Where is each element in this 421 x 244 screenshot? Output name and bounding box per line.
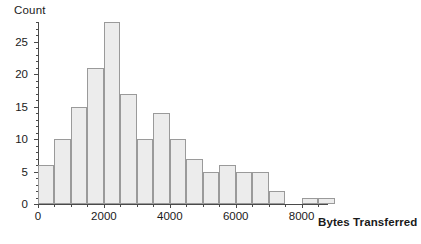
histogram-bar	[87, 68, 103, 205]
y-axis-tick-label: 5	[22, 166, 28, 178]
x-axis-minor-tick	[285, 204, 286, 207]
x-axis-tick-label: 2000	[91, 210, 117, 222]
y-axis-tick-label: 10	[15, 133, 28, 145]
y-axis-minor-tick	[36, 146, 39, 147]
x-axis-minor-tick	[186, 204, 187, 207]
y-axis-minor-tick	[36, 81, 39, 82]
y-axis-tick-label: 25	[15, 36, 28, 48]
histogram-bar	[120, 94, 136, 205]
y-axis-minor-tick	[36, 55, 39, 56]
y-axis-minor-tick	[36, 22, 39, 23]
x-axis-tick	[38, 204, 39, 208]
y-axis-minor-tick	[36, 68, 39, 69]
y-axis-minor-tick	[36, 61, 39, 62]
x-axis-minor-tick	[219, 204, 220, 207]
x-axis-minor-tick	[120, 204, 121, 207]
x-axis-minor-tick	[71, 204, 72, 207]
x-axis-tick	[236, 204, 237, 208]
histogram-bar	[252, 172, 268, 205]
histogram-bar	[153, 113, 169, 204]
y-axis-minor-tick	[36, 126, 39, 127]
histogram-bar	[71, 107, 87, 205]
y-axis-minor-tick	[36, 159, 39, 160]
x-axis-tick-label: 4000	[157, 210, 183, 222]
x-axis-minor-tick	[153, 204, 154, 207]
y-axis-minor-tick	[36, 152, 39, 153]
histogram-bar	[203, 172, 219, 205]
x-axis-minor-tick	[318, 204, 319, 207]
histogram-bar	[38, 165, 54, 204]
y-axis-tick-label: 20	[15, 68, 28, 80]
y-axis-minor-tick	[36, 29, 39, 30]
histogram-bar	[269, 191, 285, 204]
y-axis-minor-tick	[36, 113, 39, 114]
histogram-bar	[104, 22, 120, 204]
y-axis-tick: 10	[34, 139, 38, 140]
y-axis-tick: 15	[34, 107, 38, 108]
y-axis-tick: 25	[34, 42, 38, 43]
x-axis-tick	[170, 204, 171, 208]
y-axis-tick-label: 15	[15, 101, 28, 113]
histogram-bar	[54, 139, 70, 204]
y-axis-tick-label: 0	[22, 198, 28, 210]
y-axis-minor-tick	[36, 94, 39, 95]
x-axis-title: Bytes Transferred	[318, 216, 418, 228]
x-axis-minor-tick	[54, 204, 55, 207]
x-axis-minor-tick	[203, 204, 204, 207]
histogram-bar	[186, 159, 202, 205]
y-axis-minor-tick	[36, 35, 39, 36]
histogram-figure: Count Bytes Transferred 0510152025020004…	[0, 0, 421, 244]
x-axis-tick-label: 0	[35, 210, 41, 222]
x-axis-minor-tick	[269, 204, 270, 207]
y-axis-minor-tick	[36, 87, 39, 88]
x-axis-tick-label: 6000	[223, 210, 249, 222]
histogram-bar	[236, 172, 252, 205]
plot-area: 051015202502000400060008000	[38, 22, 328, 204]
x-axis-tick	[104, 204, 105, 208]
y-axis-minor-tick	[36, 48, 39, 49]
y-axis-tick: 20	[34, 74, 38, 75]
x-axis-tick-label: 8000	[289, 210, 315, 222]
x-axis-tick	[302, 204, 303, 208]
x-axis-minor-tick	[252, 204, 253, 207]
y-axis-minor-tick	[36, 120, 39, 121]
histogram-bar	[219, 165, 235, 204]
x-axis-minor-tick	[137, 204, 138, 207]
y-axis-minor-tick	[36, 133, 39, 134]
histogram-bar	[170, 139, 186, 204]
x-axis-minor-tick	[87, 204, 88, 207]
y-axis-title: Count	[14, 4, 46, 16]
histogram-bar	[302, 198, 318, 205]
y-axis-minor-tick	[36, 100, 39, 101]
histogram-bar	[137, 139, 153, 204]
histogram-bar	[318, 198, 334, 205]
